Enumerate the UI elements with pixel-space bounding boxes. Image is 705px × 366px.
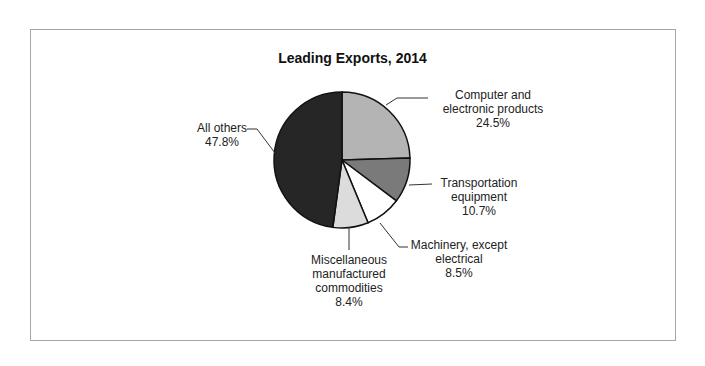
leader-line-machinery (380, 223, 408, 247)
label-computer: Computer and electronic products 24.5% (428, 88, 558, 130)
label-value: 10.7% (432, 204, 526, 218)
label-text: commodities (298, 281, 400, 295)
label-value: 8.5% (406, 266, 512, 280)
label-value: 8.4% (298, 295, 400, 309)
label-value: 47.8% (192, 135, 252, 149)
label-machinery: Machinery, except electrical 8.5% (406, 238, 512, 280)
label-text: manufactured (298, 267, 400, 281)
leader-line-computer (386, 98, 428, 105)
label-text: equipment (432, 190, 526, 204)
label-others: All others 47.8% (192, 121, 252, 149)
label-text: Machinery, except (406, 238, 512, 252)
label-value: 24.5% (428, 116, 558, 130)
pie-slice-0 (342, 92, 410, 160)
label-text: Computer and (428, 88, 558, 102)
label-misc: Miscellaneous manufactured commodities 8… (298, 253, 400, 309)
label-text: electronic products (428, 102, 558, 116)
label-text: electrical (406, 252, 512, 266)
label-text: All others (192, 121, 252, 135)
label-text: Transportation (432, 176, 526, 190)
label-text: Miscellaneous (298, 253, 400, 267)
label-transport: Transportation equipment 10.7% (432, 176, 526, 218)
pie-chart (0, 0, 705, 366)
pie-slice-4 (274, 92, 342, 227)
leader-line-transport (409, 184, 432, 185)
pie-slices (274, 92, 410, 228)
